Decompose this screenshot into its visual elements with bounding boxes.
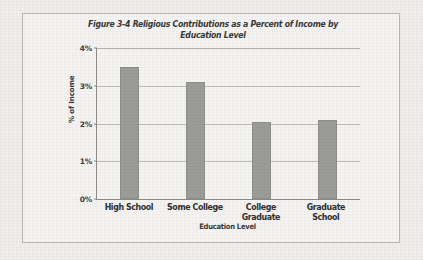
bar-slot	[97, 48, 163, 199]
chart-title-line-2: Education Level	[74, 30, 353, 41]
bars-layer	[97, 48, 360, 199]
bar[interactable]	[318, 120, 337, 199]
x-tick-label: Some College	[164, 202, 224, 222]
y-tick-label: 3%	[80, 81, 92, 90]
bar[interactable]	[120, 67, 139, 199]
y-tick-label: 4%	[80, 44, 92, 53]
bar-slot	[163, 48, 229, 199]
bar[interactable]	[252, 122, 271, 199]
chart-title-line-1: Figure 3-4 Religious Contributions as a …	[74, 19, 353, 30]
x-tick-label: High School	[99, 202, 159, 222]
y-tick-label: 1%	[80, 157, 92, 166]
x-tick-label: Graduate School	[296, 202, 356, 222]
bar[interactable]	[186, 82, 205, 199]
bar-slot	[229, 48, 295, 199]
figure-frame: Figure 3-4 Religious Contributions as a …	[22, 13, 400, 243]
chart-title: Figure 3-4 Religious Contributions as a …	[74, 19, 353, 41]
plot-area: 0%1%2%3%4%	[96, 48, 360, 200]
y-tick-label: 2%	[80, 119, 92, 128]
bar-slot	[294, 48, 360, 199]
y-axis-title: % of Income	[67, 76, 76, 123]
x-tick-label: College Graduate	[230, 202, 290, 222]
x-tick-labels: High SchoolSome CollegeCollege GraduateG…	[96, 202, 359, 222]
x-axis-title: Education Level	[107, 222, 349, 231]
y-tick-label: 0%	[80, 195, 92, 204]
